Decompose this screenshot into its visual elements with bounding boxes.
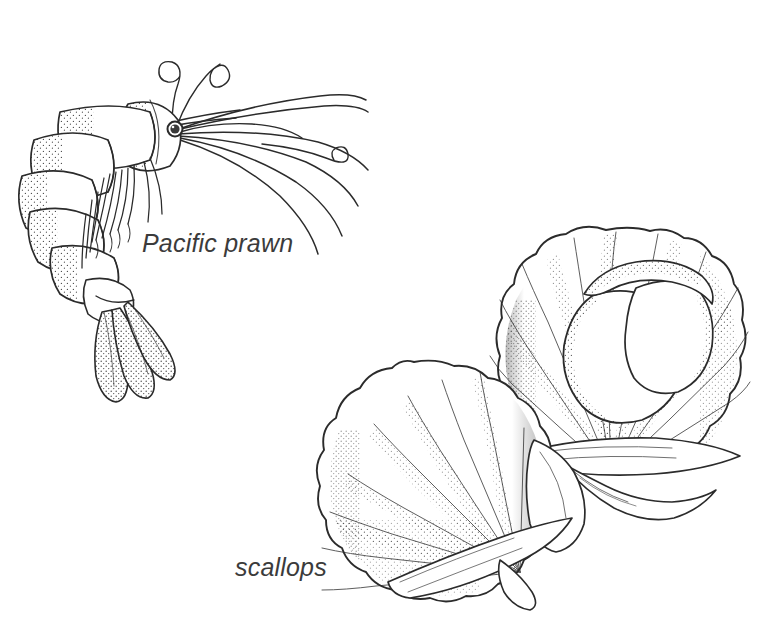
seafood-illustration-artwork [0,0,771,617]
illustration-page: Pacific prawn scallops [0,0,771,617]
prawn-eye [168,122,183,137]
label-scallops: scallops [235,553,327,582]
prawn-antenna-hook-curl [262,144,348,162]
prawn-tail-shading [95,302,175,402]
prawn-abdomen-segments [14,100,155,323]
label-pacific-prawn: Pacific prawn [142,229,293,258]
prawn-tail-fan [95,296,175,402]
